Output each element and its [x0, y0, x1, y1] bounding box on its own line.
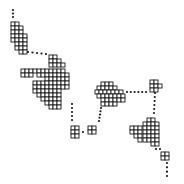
- grid-cell: [53, 89, 57, 93]
- grid-cell: [57, 63, 61, 67]
- path-cluster1-to-cluster2: [27, 51, 47, 55]
- grid-cell: [151, 122, 155, 126]
- grid-cell: [71, 126, 75, 130]
- grid-cell: [97, 94, 101, 98]
- connector-dot: [154, 100, 156, 102]
- grid-cell: [33, 85, 37, 89]
- grid-cell: [53, 97, 57, 101]
- grid-cell: [53, 63, 57, 67]
- grid-cell: [19, 26, 23, 30]
- grid-cell: [109, 86, 113, 90]
- grid-cell: [61, 63, 65, 67]
- connector-dot: [12, 9, 14, 11]
- grid-cell: [161, 156, 165, 160]
- grid-cell: [37, 73, 41, 77]
- connector-dot: [12, 12, 14, 14]
- grid-cell: [49, 59, 53, 63]
- grid-cell: [65, 73, 69, 77]
- path-top-entry: [12, 9, 14, 18]
- grid-cell: [147, 118, 151, 122]
- connector-dot: [71, 115, 73, 117]
- grid-cell: [147, 134, 151, 138]
- connector-dot: [82, 131, 84, 133]
- grid-cell: [101, 102, 105, 106]
- grid-cell: [61, 77, 65, 81]
- grid-cell: [155, 142, 159, 146]
- grid-cell: [155, 130, 159, 134]
- connector-dot: [153, 104, 155, 106]
- grid-cell: [109, 82, 113, 86]
- grid-cell: [109, 102, 113, 106]
- grid-cell: [61, 81, 65, 85]
- grid-cell: [138, 126, 142, 130]
- grid-cell: [161, 152, 165, 156]
- connector-dot: [134, 91, 136, 93]
- grid-cell: [130, 130, 134, 134]
- grid-cell: [57, 85, 61, 89]
- grid-cell: [57, 105, 61, 109]
- connector-dot: [141, 91, 143, 93]
- grid-cell: [134, 126, 138, 130]
- cluster-small-pair-left: [71, 126, 79, 138]
- grid-cell: [65, 81, 69, 85]
- grid-cell: [75, 130, 79, 134]
- cluster-bottom-right: [130, 118, 159, 146]
- grid-cell: [151, 142, 155, 146]
- grid-cell: [15, 30, 19, 34]
- grid-cell: [105, 98, 109, 102]
- connector-dot: [98, 120, 100, 122]
- grid-cell: [105, 86, 109, 90]
- path-topright-down: [153, 92, 156, 114]
- grid-cell: [151, 130, 155, 134]
- grid-cell: [151, 134, 155, 138]
- grid-cell: [53, 77, 57, 81]
- grid-cell: [154, 88, 158, 92]
- grid-cell: [37, 69, 41, 73]
- grid-cell: [49, 101, 53, 105]
- grid-cell: [19, 42, 23, 46]
- connector-dot: [154, 96, 156, 98]
- grid-cell: [154, 80, 158, 84]
- grid-cell: [53, 55, 57, 59]
- grid-cell: [61, 69, 65, 73]
- grid-cell: [95, 90, 99, 94]
- grid-cell: [147, 122, 151, 126]
- grid-cell: [99, 90, 103, 94]
- grid-cell: [117, 98, 121, 102]
- grid-cell: [25, 69, 29, 73]
- cluster-center: [95, 82, 125, 106]
- grid-cell: [53, 69, 57, 73]
- grid-cell: [109, 98, 113, 102]
- grid-cell: [23, 34, 27, 38]
- grid-cell: [134, 134, 138, 138]
- connector-dot: [166, 162, 168, 164]
- grid-cell: [65, 77, 69, 81]
- grid-cell: [143, 130, 147, 134]
- grid-cell: [19, 46, 23, 50]
- grid-cell: [53, 101, 57, 105]
- grid-cell: [147, 138, 151, 142]
- grid-cell: [151, 126, 155, 130]
- connector-dot: [130, 91, 132, 93]
- connector-dot: [99, 113, 101, 115]
- grid-cell: [165, 152, 169, 156]
- connector-dot: [71, 119, 73, 121]
- cluster-top-left: [11, 22, 27, 54]
- grid-cell: [41, 93, 45, 97]
- connector-dot: [154, 92, 156, 94]
- grid-cell: [19, 34, 23, 38]
- grid-cell: [147, 130, 151, 134]
- path-tail-down: [166, 162, 168, 177]
- connector-dot: [137, 91, 139, 93]
- grid-cell: [101, 86, 105, 90]
- grid-cell: [92, 130, 96, 134]
- connector-dot: [100, 107, 102, 109]
- grid-cluster-diagram: [0, 0, 184, 184]
- grid-cell: [151, 118, 155, 122]
- grid-cell: [15, 22, 19, 26]
- grid-cell: [138, 134, 142, 138]
- grid-cell: [143, 122, 147, 126]
- grid-cell: [19, 50, 23, 54]
- grid-cell: [75, 126, 79, 130]
- grid-cell: [57, 69, 61, 73]
